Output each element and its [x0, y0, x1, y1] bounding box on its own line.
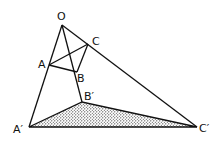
shaded-triangle-apbpcp [29, 102, 197, 127]
ray-o-bp [62, 25, 82, 102]
label-a: A [38, 58, 46, 71]
label-c-prime: C′ [199, 122, 210, 135]
label-o: O [57, 10, 66, 23]
segment-bc [77, 44, 88, 72]
ray-o-ap [29, 25, 62, 127]
label-c: C [92, 35, 100, 48]
label-b-prime: B′ [84, 90, 95, 103]
perspective-triangles-diagram: O C A B B′ A′ C′ [0, 0, 221, 148]
label-a-prime: A′ [13, 123, 24, 136]
label-b: B [77, 72, 85, 85]
